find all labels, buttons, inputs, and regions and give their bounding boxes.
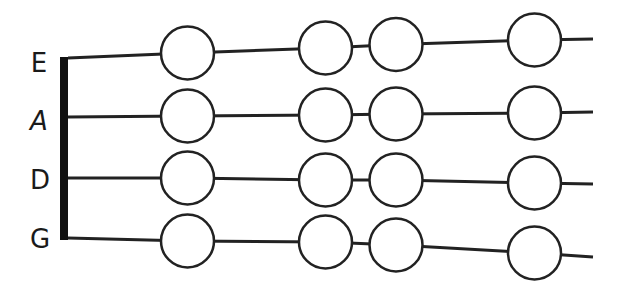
finger-position-circle-a-2: [299, 89, 352, 142]
finger-position-circle-g-3: [370, 219, 423, 272]
finger-position-circle-a-3: [370, 88, 423, 141]
finger-position-circle-g-1: [161, 215, 214, 268]
finger-position-circle-e-1: [161, 27, 214, 80]
finger-position-circle-d-1: [161, 152, 214, 205]
finger-position-circle-d-3: [370, 154, 423, 207]
finger-position-circle-a-4: [508, 87, 561, 140]
finger-position-circle-d-2: [299, 154, 352, 207]
finger-position-circle-g-2: [299, 216, 352, 269]
finger-position-circle-g-4: [508, 227, 561, 280]
finger-position-circle-e-2: [299, 22, 352, 75]
finger-positions: [161, 14, 561, 280]
finger-position-circle-a-1: [161, 90, 214, 143]
finger-position-circle-d-4: [508, 157, 561, 210]
fingerboard-diagram: [0, 0, 623, 294]
finger-position-circle-e-3: [370, 18, 423, 71]
finger-position-circle-e-4: [508, 14, 561, 67]
nut-bar: [60, 57, 68, 240]
